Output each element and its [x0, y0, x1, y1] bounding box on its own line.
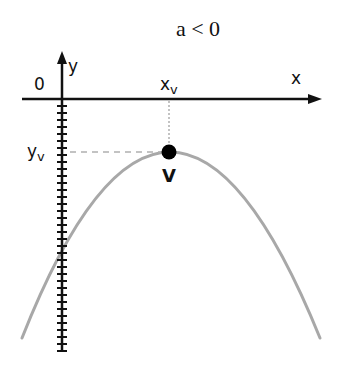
x-axis-label: x: [291, 68, 301, 88]
vertex-point: [162, 145, 177, 160]
diagram-title: a < 0: [176, 16, 220, 41]
vertex-label: V: [162, 165, 176, 186]
y-axis-label: y: [68, 56, 78, 76]
y-axis-arrow-icon: [57, 51, 67, 64]
x-axis-arrow-icon: [308, 94, 322, 104]
y-axis: [57, 51, 67, 352]
parabola-diagram: a < 0: [0, 0, 342, 369]
origin-label: 0: [34, 74, 45, 94]
vertex-x-label: xv: [160, 74, 178, 97]
vertex-y-label: yv: [27, 141, 45, 164]
